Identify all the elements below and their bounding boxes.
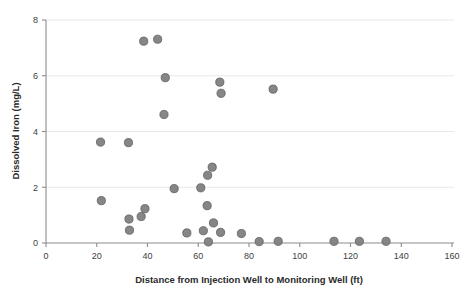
data-point <box>125 215 133 223</box>
data-point <box>355 237 363 245</box>
data-point <box>183 229 191 237</box>
y-tick-label: 4 <box>33 127 38 137</box>
data-point <box>208 163 216 171</box>
y-axis-title: Dissolved Iron (mg/L) <box>10 82 21 179</box>
x-tick-label: 120 <box>343 251 358 261</box>
x-tick-label: 60 <box>193 251 203 261</box>
data-point <box>216 78 224 86</box>
data-point <box>255 238 263 246</box>
x-tick-label: 140 <box>394 251 409 261</box>
data-point <box>97 197 105 205</box>
data-point <box>137 212 145 220</box>
scatter-chart: 020406080100120140160 02468 Distance fro… <box>0 0 469 298</box>
y-tick-label: 2 <box>33 183 38 193</box>
data-point <box>274 237 282 245</box>
y-tick-label: 0 <box>33 238 38 248</box>
data-point <box>217 89 225 97</box>
data-point <box>140 37 148 45</box>
data-point <box>170 185 178 193</box>
data-point <box>96 138 104 146</box>
x-tick-label: 20 <box>92 251 102 261</box>
y-tick-label: 8 <box>33 15 38 25</box>
data-point <box>237 229 245 237</box>
data-point <box>161 74 169 82</box>
data-point <box>141 205 149 213</box>
data-point <box>382 237 390 245</box>
x-tick-label: 80 <box>244 251 254 261</box>
x-tick-label: 0 <box>43 251 48 261</box>
x-tick-label: 160 <box>444 251 459 261</box>
x-tick-label: 40 <box>142 251 152 261</box>
data-point <box>197 184 205 192</box>
data-point <box>204 171 212 179</box>
chart-canvas: 020406080100120140160 02468 Distance fro… <box>0 0 469 298</box>
data-point <box>199 227 207 235</box>
data-point <box>216 228 224 236</box>
x-tick-label: 100 <box>292 251 307 261</box>
data-point <box>269 85 277 93</box>
y-tick-label: 6 <box>33 71 38 81</box>
data-point <box>154 35 162 43</box>
data-point <box>209 219 217 227</box>
data-point <box>330 237 338 245</box>
data-point <box>204 238 212 246</box>
data-point <box>160 110 168 118</box>
data-point <box>125 226 133 234</box>
data-point <box>203 202 211 210</box>
x-axis-title: Distance from Injection Well to Monitori… <box>135 274 363 285</box>
data-point <box>124 139 132 147</box>
